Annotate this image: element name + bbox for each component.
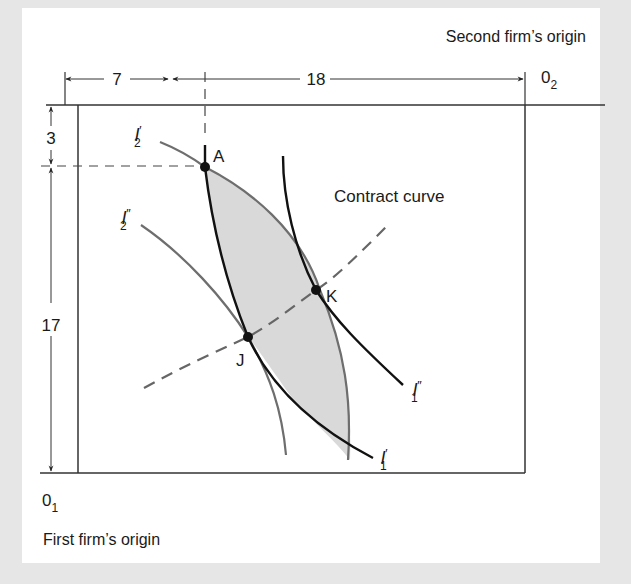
label-I2-prime: I′2: [134, 123, 142, 150]
dim-label-3: 3: [46, 129, 55, 148]
label-I2-double-prime: I″2: [120, 206, 130, 233]
contract-curve-label: Contract curve: [334, 187, 445, 206]
first-origin-caption: First firm’s origin: [43, 531, 160, 548]
label-I1-prime: I′1: [380, 446, 388, 473]
dim-label-17: 17: [42, 316, 61, 335]
point-J-label: J: [236, 351, 245, 370]
point-A-label: A: [213, 147, 225, 166]
second-origin-label: 02: [541, 68, 557, 92]
label-I1-double-prime: I″1: [411, 378, 421, 405]
point-A: [200, 162, 210, 172]
first-origin-label: 01: [42, 491, 58, 515]
dim-label-18: 18: [307, 70, 326, 89]
edgeworth-box-diagram: Second firm’s origin 02 7 18 3 17 Contra…: [0, 0, 631, 584]
point-K: [311, 285, 321, 295]
dim-label-7: 7: [112, 70, 121, 89]
point-J: [243, 332, 253, 342]
second-origin-caption: Second firm’s origin: [446, 28, 586, 45]
point-K-label: K: [326, 287, 338, 306]
